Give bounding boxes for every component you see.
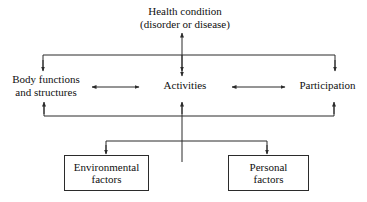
node-participation: Participation xyxy=(288,79,367,92)
body-functions-line-1: Body functions xyxy=(0,73,92,86)
participation-line-1: Participation xyxy=(288,79,367,92)
node-health-condition: Health condition (disorder or disease) xyxy=(110,5,260,30)
node-environmental-factors: Environmental factors xyxy=(64,155,149,191)
icf-diagram: Health condition (disorder or disease) B… xyxy=(0,0,367,202)
top-bus-line xyxy=(43,55,335,70)
node-personal-factors: Personal factors xyxy=(228,155,309,191)
health-condition-line-1: Health condition xyxy=(110,5,260,18)
personal-factors-line-2: factors xyxy=(229,173,308,186)
body-functions-line-2: and structures xyxy=(0,86,92,99)
node-body-functions-and-structures: Body functions and structures xyxy=(0,73,92,98)
personal-factors-line-1: Personal xyxy=(229,161,308,174)
environmental-factors-line-2: factors xyxy=(65,173,148,186)
environmental-factors-label: Environmental factors xyxy=(65,161,148,186)
diagram-connectors xyxy=(0,0,367,202)
environmental-factors-line-1: Environmental xyxy=(65,161,148,174)
health-condition-line-2: (disorder or disease) xyxy=(110,18,260,31)
activities-line-1: Activities xyxy=(142,79,228,92)
bottom-bus-line xyxy=(44,104,334,116)
node-activities: Activities xyxy=(142,79,228,92)
factors-bus-line xyxy=(106,141,267,153)
personal-factors-label: Personal factors xyxy=(229,161,308,186)
